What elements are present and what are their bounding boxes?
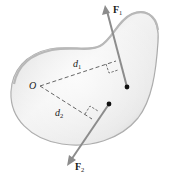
- f1-label-sub: 1: [119, 9, 122, 16]
- d2-label-sub: 2: [60, 112, 63, 119]
- f1-label: F1: [113, 5, 122, 17]
- f1-arrowhead-icon: [102, 5, 110, 15]
- moment-diagram: O d1 d2 F1 F2: [0, 0, 169, 177]
- origin-label: O: [29, 81, 36, 91]
- d1-label: d1: [73, 59, 81, 71]
- f2-label-sub: 2: [81, 166, 84, 173]
- diagram-graphic: [0, 0, 169, 177]
- f2-label: F2: [75, 162, 84, 174]
- d2-label: d2: [55, 108, 63, 120]
- d1-label-sub: 1: [78, 63, 81, 70]
- f1-application-point: [125, 85, 130, 90]
- f2-application-point: [107, 102, 112, 107]
